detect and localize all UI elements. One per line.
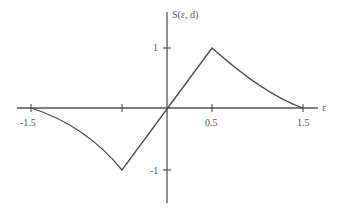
y-tick-label-1: 1 [153, 42, 158, 53]
y-axis-label: S(ε, d) [172, 9, 198, 21]
x-axis-label: ε [322, 102, 326, 113]
y-tick-label-neg1: -1 [150, 165, 158, 176]
x-tick-label-neg1-5: -1.5 [20, 117, 36, 128]
x-tick-label-1-5: 1.5 [297, 117, 310, 128]
chart: S(ε, d) ε -1.5 0.5 1.5 1 -1 [0, 0, 341, 215]
x-tick-label-0-5: 0.5 [205, 117, 218, 128]
